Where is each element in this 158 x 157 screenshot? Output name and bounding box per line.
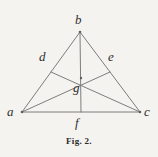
- vertex-label-c: c: [144, 105, 150, 118]
- dot-b: [79, 31, 82, 34]
- dot-c: [139, 111, 142, 114]
- dot-g: [80, 77, 82, 79]
- figure-container: a b c d e f g Fig. 2.: [0, 0, 158, 157]
- vertex-label-a: a: [7, 105, 14, 118]
- dot-a: [21, 111, 24, 114]
- point-label-d: d: [39, 50, 46, 63]
- median-b-to-f: [80, 32, 81, 112]
- medians: [22, 32, 140, 112]
- median-a-to-e: [22, 72, 110, 112]
- point-label-e: e: [108, 50, 114, 63]
- vertex-label-b: b: [75, 13, 82, 26]
- point-label-f: f: [75, 116, 79, 129]
- point-label-g: g: [73, 81, 80, 94]
- figure-caption: Fig. 2.: [0, 136, 158, 146]
- median-c-to-d: [51, 72, 140, 112]
